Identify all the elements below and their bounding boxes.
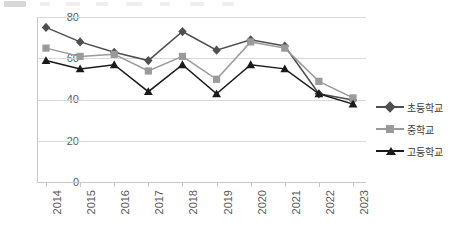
data-point-square bbox=[179, 53, 186, 60]
legend-square-icon bbox=[376, 122, 404, 136]
x-axis-tick bbox=[148, 183, 149, 187]
data-point-triangle bbox=[246, 60, 255, 68]
x-axis-tick bbox=[182, 183, 183, 187]
legend-diamond-icon bbox=[376, 100, 404, 114]
x-axis-tick bbox=[217, 183, 218, 187]
data-point-square bbox=[77, 53, 84, 60]
legend-label: 고등학교 bbox=[407, 144, 443, 159]
legend-item-middle[interactable]: 중학교 bbox=[376, 118, 456, 140]
data-point-diamond bbox=[212, 46, 220, 55]
legend-item-elementary[interactable]: 초등학교 bbox=[376, 96, 456, 118]
data-point-square bbox=[247, 38, 254, 45]
x-axis-tick-label: 2023 bbox=[358, 190, 370, 214]
cropped-toolbar-strip bbox=[0, 0, 456, 9]
toolbar-ghost-item bbox=[126, 2, 142, 6]
toolbar-ghost-item bbox=[160, 2, 170, 6]
toolbar-ghost-item bbox=[222, 2, 234, 6]
x-axis-tick bbox=[319, 183, 320, 187]
legend-label: 중학교 bbox=[407, 122, 434, 137]
x-axis-tick-label: 2017 bbox=[153, 190, 165, 214]
x-axis-tick bbox=[251, 183, 252, 187]
x-axis-tick-label: 2022 bbox=[324, 190, 336, 214]
plot-area bbox=[37, 17, 366, 183]
chart-legend: 초등학교 중학교 고등학교 bbox=[376, 96, 456, 162]
data-point-triangle bbox=[178, 60, 187, 68]
data-point-triangle bbox=[110, 60, 119, 68]
chart-container: 80 60 40 20 0 20142015201620172018201920… bbox=[0, 0, 456, 235]
series-line bbox=[46, 27, 353, 100]
x-axis-tick-label: 2014 bbox=[51, 190, 63, 214]
toolbar-ghost-item bbox=[190, 2, 204, 6]
data-point-square bbox=[213, 76, 220, 83]
toolbar-ghost-item bbox=[96, 2, 108, 6]
data-point-square bbox=[281, 45, 288, 52]
x-axis-tick-label: 2018 bbox=[187, 190, 199, 214]
x-axis-tick bbox=[353, 183, 354, 187]
x-axis-tick bbox=[46, 183, 47, 187]
legend-triangle-icon bbox=[376, 144, 404, 158]
data-point-square bbox=[42, 45, 49, 52]
data-point-diamond bbox=[76, 37, 84, 46]
toolbar-ghost-item bbox=[66, 2, 80, 6]
x-axis-tick bbox=[114, 183, 115, 187]
series-layer bbox=[37, 17, 366, 183]
data-point-diamond bbox=[42, 23, 50, 32]
x-axis-tick-label: 2021 bbox=[290, 190, 302, 214]
x-axis-tick bbox=[80, 183, 81, 187]
data-point-triangle bbox=[42, 56, 51, 64]
x-axis-tick bbox=[285, 183, 286, 187]
legend-item-high[interactable]: 고등학교 bbox=[376, 140, 456, 162]
series-line bbox=[46, 42, 353, 98]
toolbar-chip bbox=[4, 1, 26, 7]
data-point-square bbox=[145, 67, 152, 74]
data-point-square bbox=[111, 51, 118, 58]
x-axis-tick-label: 2015 bbox=[85, 190, 97, 214]
x-axis-tick-label: 2016 bbox=[119, 190, 131, 214]
data-point-square bbox=[315, 78, 322, 85]
toolbar-ghost-item bbox=[40, 2, 50, 6]
x-axis-tick-label: 2019 bbox=[222, 190, 234, 214]
x-axis-tick-label: 2020 bbox=[256, 190, 268, 214]
legend-label: 초등학교 bbox=[407, 100, 443, 115]
